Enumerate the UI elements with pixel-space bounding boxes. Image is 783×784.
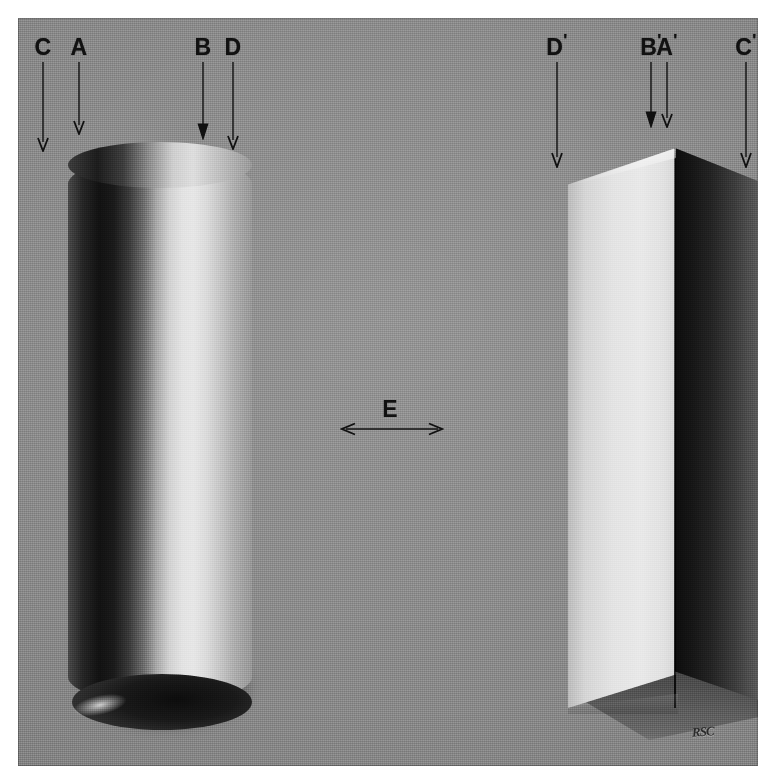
- marker-arrow-D: [227, 62, 240, 150]
- cylinder-top-ellipse: [68, 142, 252, 188]
- cylinder-object: [50, 136, 270, 746]
- marker-arrow-B: [197, 62, 210, 140]
- marker-label-A-prime: A': [656, 32, 678, 59]
- cylinder-body: [68, 158, 252, 703]
- marker-arrow-A: [73, 62, 86, 135]
- folded-plane-light-face: [568, 148, 676, 708]
- folded-plane-object: [548, 148, 758, 748]
- folded-plane-crease-edge: [674, 148, 676, 708]
- figure-root: RSC C A B D: [0, 0, 783, 784]
- marker-arrow-B-prime: [645, 62, 658, 128]
- marker-arrow-A-prime: [661, 62, 674, 128]
- marker-arrow-D-prime: [551, 62, 564, 168]
- marker-label-A: A: [70, 32, 87, 59]
- marker-label-C: C: [34, 32, 51, 59]
- illustration-plate: RSC: [18, 18, 758, 766]
- span-marker-label-E: E: [382, 398, 397, 421]
- marker-label-D-prime: D': [546, 32, 568, 59]
- span-marker-double-arrow: [340, 420, 444, 438]
- marker-arrow-C-prime: [740, 62, 753, 168]
- marker-label-D: D: [224, 32, 241, 59]
- marker-arrow-C: [37, 62, 50, 152]
- artist-monogram: RSC: [692, 723, 715, 740]
- marker-label-B: B: [194, 32, 211, 59]
- marker-label-C-prime: C': [735, 32, 757, 59]
- folded-plane-dark-face: [675, 148, 758, 708]
